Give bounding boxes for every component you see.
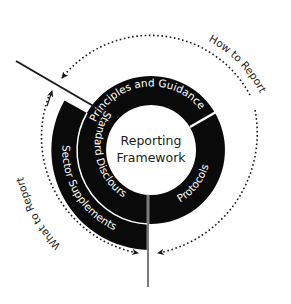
what-to-report-label: What to Report — [13, 176, 62, 252]
how-label-text: How to Report — [207, 32, 269, 94]
what-label-text: What to Report — [13, 176, 62, 252]
how-to-report-label: How to Report — [207, 32, 269, 94]
center-label-line2: Framework — [116, 150, 186, 165]
reporting-framework-diagram: Reporting Framework Principles and Guida… — [0, 0, 291, 304]
center-label-line1: Reporting — [121, 133, 182, 148]
